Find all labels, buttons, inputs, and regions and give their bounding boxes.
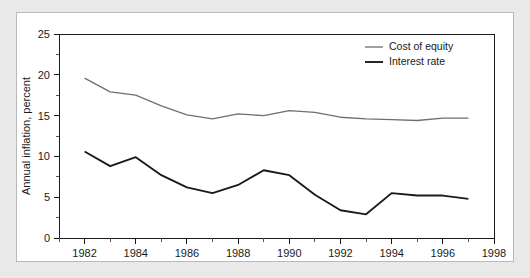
- figure-card: 0510152025 19821984198619881990199219941…: [16, 12, 514, 262]
- x-tick-label: 1988: [226, 247, 250, 259]
- x-tick-label: 1996: [431, 247, 455, 259]
- y-axis-tick-labels: 0510152025: [38, 28, 50, 244]
- y-tick-label: 5: [44, 191, 50, 203]
- chart-legend: Cost of equityInterest rate: [365, 40, 454, 67]
- x-tick-label: 1994: [379, 247, 403, 259]
- x-axis-tick-labels: 198219841986198819901992199419961998: [72, 247, 506, 259]
- series-line-cost-of-equity: [85, 78, 469, 120]
- y-axis-title: Annual inflation, percent: [20, 77, 32, 195]
- y-tick-label: 20: [38, 69, 50, 81]
- x-tick-label: 1986: [175, 247, 199, 259]
- x-tick-label: 1982: [72, 247, 96, 259]
- y-tick-label: 10: [38, 150, 50, 162]
- y-axis-ticks: [54, 34, 59, 238]
- legend-label-cost-of-equity: Cost of equity: [389, 40, 454, 52]
- series-group: [85, 78, 469, 214]
- y-tick-label: 25: [38, 28, 50, 40]
- x-tick-label: 1990: [277, 247, 301, 259]
- x-tick-label: 1998: [482, 247, 506, 259]
- series-line-interest-rate: [85, 152, 469, 215]
- x-tick-label: 1992: [328, 247, 352, 259]
- y-tick-label: 0: [44, 232, 50, 244]
- legend-label-interest-rate: Interest rate: [389, 55, 445, 67]
- x-tick-label: 1984: [124, 247, 148, 259]
- line-chart: 0510152025 19821984198619881990199219941…: [17, 13, 515, 263]
- y-tick-label: 15: [38, 110, 50, 122]
- x-axis-ticks: [59, 238, 494, 244]
